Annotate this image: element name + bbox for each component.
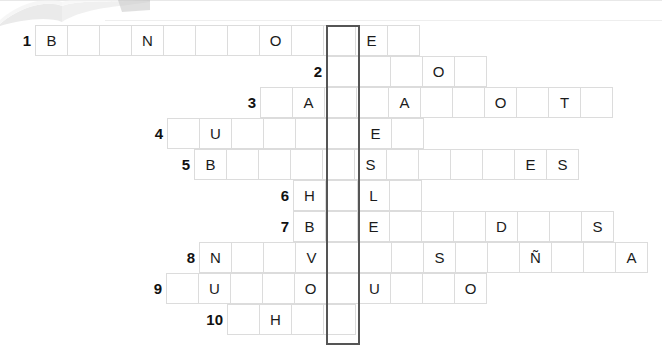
crossword-cell-empty[interactable] <box>226 149 259 180</box>
crossword-cell-empty[interactable] <box>482 149 515 180</box>
crossword-cell-empty[interactable] <box>420 87 453 118</box>
crossword-cell-filled[interactable]: L <box>357 180 390 211</box>
crossword-cell-empty[interactable] <box>327 118 360 149</box>
clue-number: 10 <box>197 304 223 335</box>
crossword-cell-empty[interactable] <box>580 87 613 118</box>
crossword-cell-filled[interactable]: U <box>358 273 391 304</box>
crossword-cell-empty[interactable] <box>231 118 264 149</box>
crossword-grid[interactable]: 1BNOE2O3AAOT4UE5BSES6HL7BEDS8NVSÑA9UOUO1… <box>0 0 662 347</box>
crossword-cell-empty[interactable] <box>516 87 549 118</box>
crossword-cell-empty[interactable] <box>450 149 483 180</box>
crossword-cell-filled[interactable]: U <box>198 273 231 304</box>
crossword-cell-empty[interactable] <box>391 118 424 149</box>
crossword-cell-filled[interactable]: O <box>294 273 327 304</box>
crossword-cell-empty[interactable] <box>230 273 263 304</box>
crossword-cell-empty[interactable] <box>454 56 487 87</box>
clue-number: 9 <box>136 273 162 304</box>
crossword-cell-empty[interactable] <box>391 242 424 273</box>
clue-number: 5 <box>164 149 190 180</box>
crossword-cell-empty[interactable] <box>549 211 582 242</box>
crossword-cell-empty[interactable] <box>260 87 293 118</box>
crossword-cell-filled[interactable]: B <box>35 25 68 56</box>
crossword-cell-empty[interactable] <box>389 211 422 242</box>
crossword-cell-empty[interactable] <box>263 242 296 273</box>
crossword-row: 1BNOE <box>0 25 662 56</box>
crossword-cell-empty[interactable] <box>324 87 357 118</box>
crossword-cell-empty[interactable] <box>295 118 328 149</box>
crossword-cell-filled[interactable]: O <box>484 87 517 118</box>
crossword-cell-empty[interactable] <box>356 87 389 118</box>
crossword-cell-empty[interactable] <box>291 304 324 335</box>
crossword-cell-filled[interactable]: B <box>293 211 326 242</box>
crossword-cell-empty[interactable] <box>231 242 264 273</box>
crossword-cell-empty[interactable] <box>323 304 356 335</box>
crossword-cell-empty[interactable] <box>263 118 296 149</box>
crossword-cell-empty[interactable] <box>517 211 550 242</box>
crossword-cell-filled[interactable]: H <box>293 180 326 211</box>
crossword-cell-filled[interactable]: E <box>355 25 388 56</box>
crossword-cell-empty[interactable] <box>452 87 485 118</box>
crossword-cell-empty[interactable] <box>387 25 420 56</box>
clue-number: 1 <box>5 25 31 56</box>
crossword-cell-empty[interactable] <box>166 273 199 304</box>
crossword-cell-empty[interactable] <box>326 273 359 304</box>
crossword-cell-filled[interactable]: N <box>131 25 164 56</box>
crossword-cell-filled[interactable]: S <box>423 242 456 273</box>
crossword-cell-empty[interactable] <box>323 25 356 56</box>
crossword-cell-filled[interactable]: V <box>295 242 328 273</box>
crossword-cell-filled[interactable]: Ñ <box>519 242 552 273</box>
crossword-cell-filled[interactable]: A <box>388 87 421 118</box>
crossword-cell-empty[interactable] <box>326 56 359 87</box>
crossword-cell-empty[interactable] <box>291 25 324 56</box>
crossword-cell-empty[interactable] <box>195 25 228 56</box>
crossword-cell-empty[interactable] <box>327 242 360 273</box>
crossword-page: 1BNOE2O3AAOT4UE5BSES6HL7BEDS8NVSÑA9UOUO1… <box>0 0 662 347</box>
crossword-cell-empty[interactable] <box>99 25 132 56</box>
crossword-cell-empty[interactable] <box>389 180 422 211</box>
crossword-cell-empty[interactable] <box>290 149 323 180</box>
crossword-cell-empty[interactable] <box>551 242 584 273</box>
crossword-cell-filled[interactable]: E <box>357 211 390 242</box>
crossword-cell-filled[interactable]: O <box>259 25 292 56</box>
crossword-cell-empty[interactable] <box>67 25 100 56</box>
crossword-cell-filled[interactable]: B <box>194 149 227 180</box>
crossword-cell-empty[interactable] <box>262 273 295 304</box>
crossword-row: 3AAOT <box>0 87 662 118</box>
crossword-cell-empty[interactable] <box>325 180 358 211</box>
crossword-cell-empty[interactable] <box>322 149 355 180</box>
crossword-cell-empty[interactable] <box>359 242 392 273</box>
crossword-cell-filled[interactable]: D <box>485 211 518 242</box>
crossword-cell-filled[interactable]: E <box>359 118 392 149</box>
crossword-cell-filled[interactable]: S <box>354 149 387 180</box>
crossword-row: 4UE <box>0 118 662 149</box>
crossword-cell-empty[interactable] <box>167 118 200 149</box>
crossword-cell-empty[interactable] <box>258 149 291 180</box>
crossword-cell-empty[interactable] <box>487 242 520 273</box>
crossword-cell-empty[interactable] <box>583 242 616 273</box>
crossword-cell-filled[interactable]: U <box>199 118 232 149</box>
crossword-cell-filled[interactable]: S <box>581 211 614 242</box>
crossword-cell-empty[interactable] <box>418 149 451 180</box>
crossword-cell-empty[interactable] <box>227 304 260 335</box>
crossword-row: 9UOUO <box>0 273 662 304</box>
crossword-cell-filled[interactable]: O <box>422 56 455 87</box>
crossword-cell-empty[interactable] <box>163 25 196 56</box>
crossword-cell-empty[interactable] <box>421 211 454 242</box>
crossword-cell-filled[interactable]: A <box>615 242 648 273</box>
crossword-cell-empty[interactable] <box>386 149 419 180</box>
crossword-cell-filled[interactable]: N <box>199 242 232 273</box>
crossword-cell-empty[interactable] <box>422 273 455 304</box>
crossword-cell-filled[interactable]: A <box>292 87 325 118</box>
crossword-cell-filled[interactable]: T <box>548 87 581 118</box>
crossword-cell-filled[interactable]: O <box>454 273 487 304</box>
crossword-cell-filled[interactable]: E <box>514 149 547 180</box>
crossword-cell-filled[interactable]: H <box>259 304 292 335</box>
crossword-cell-empty[interactable] <box>358 56 391 87</box>
crossword-cell-empty[interactable] <box>390 273 423 304</box>
crossword-cell-empty[interactable] <box>325 211 358 242</box>
crossword-cell-empty[interactable] <box>453 211 486 242</box>
crossword-cell-empty[interactable] <box>390 56 423 87</box>
crossword-cell-empty[interactable] <box>455 242 488 273</box>
crossword-cell-empty[interactable] <box>227 25 260 56</box>
crossword-cell-filled[interactable]: S <box>546 149 579 180</box>
